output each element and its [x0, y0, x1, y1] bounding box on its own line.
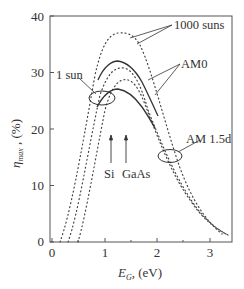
y-tick-10: 10 [31, 178, 44, 193]
si-arrow-icon [110, 135, 113, 140]
y-tick-0: 0 [38, 234, 45, 249]
x-tick-3: 3 [207, 245, 214, 260]
x-ticks [52, 238, 210, 242]
label-1-sun: 1 sun [56, 68, 83, 82]
y-ticks [50, 16, 54, 242]
x-tick-2: 2 [154, 245, 161, 260]
y-axis-title: ηmax , (%) [8, 119, 25, 168]
band-gap-arrows [110, 135, 128, 163]
label-si: Si [104, 167, 115, 181]
solid-curves [97, 61, 158, 128]
label-gaas: GaAs [122, 167, 151, 181]
x-axis-title: EG, (eV) [117, 265, 162, 282]
curve-upper-solid [98, 61, 158, 116]
label-am15d: AM 1.5d [186, 132, 232, 146]
x-tick-0: 0 [49, 245, 56, 260]
efficiency-chart: 0 10 20 30 40 0 1 2 3 EG, (eV) ηmax , (%… [0, 0, 244, 289]
gaas-arrow-icon [125, 135, 128, 140]
label-1000-suns: 1000 suns [174, 18, 224, 32]
leader-lines [79, 25, 200, 152]
y-tick-30: 30 [31, 65, 44, 80]
y-tick-40: 40 [31, 9, 44, 24]
y-tick-20: 20 [31, 122, 44, 137]
x-tick-1: 1 [102, 245, 109, 260]
label-am0: AM0 [181, 57, 207, 71]
